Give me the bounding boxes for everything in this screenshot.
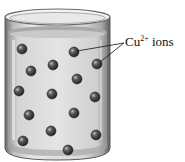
cu-ion (91, 130, 101, 140)
cu-ion (90, 92, 100, 102)
cu-ion (26, 66, 36, 76)
cu-ion (24, 110, 34, 120)
ion-species: Cu (125, 34, 140, 49)
cu-ion (46, 126, 56, 136)
cu-ion (47, 89, 57, 99)
ion-word: ions (152, 34, 174, 49)
cu-ion (14, 86, 24, 96)
beaker-diagram (0, 0, 185, 162)
cu-ion (92, 59, 102, 69)
cu-ion (63, 145, 73, 155)
cu-ion (72, 74, 82, 84)
cu-ion (17, 44, 27, 54)
ion-label: Cu2+ ions (125, 35, 174, 49)
cu-ion (69, 47, 79, 57)
cu-ion (18, 136, 28, 146)
cu-ion (69, 108, 79, 118)
cu-ion (48, 60, 58, 70)
ion-charge: 2+ (140, 34, 149, 43)
